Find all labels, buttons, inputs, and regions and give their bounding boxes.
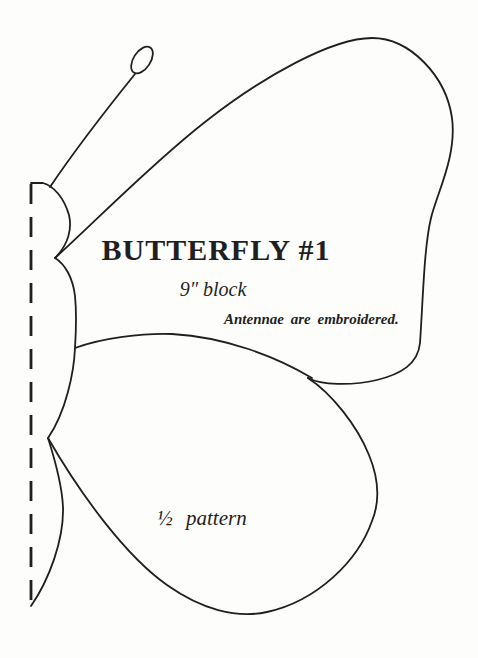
antenna-tip-icon	[127, 43, 158, 77]
pattern-title: BUTTERFLY #1	[60, 233, 372, 267]
block-size-label: 9″ block	[133, 278, 293, 301]
pattern-page: BUTTERFLY #1 9″ block Antennae are embro…	[0, 0, 478, 658]
butterfly-half-pattern-drawing	[0, 0, 478, 658]
upper-wing-outline	[55, 38, 453, 384]
half-pattern-label: ½ pattern	[157, 506, 247, 531]
embroidery-note: Antennae are embroidered.	[224, 311, 399, 328]
wing-seam	[75, 334, 312, 378]
antenna-line	[50, 74, 135, 187]
lower-wing-outline	[48, 378, 377, 614]
